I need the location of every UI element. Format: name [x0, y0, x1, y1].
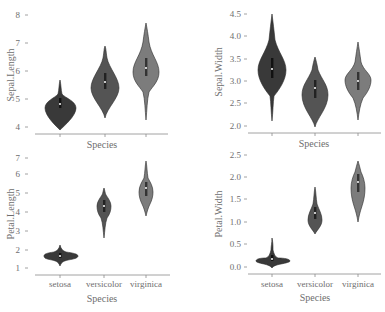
panel-petal-length: 7 6 5 4 3 2 1 Petal.Length setosa versic…: [5, 153, 170, 304]
y-tick: 5: [16, 94, 21, 104]
y-tick: 2.0: [230, 121, 242, 131]
y-tick: 2.5: [230, 98, 242, 108]
y-tick: 4: [16, 207, 21, 217]
y-tick: 8: [16, 10, 21, 20]
y-tick: 5: [16, 188, 21, 198]
y-axis-label: Petal.Width: [213, 190, 224, 237]
y-axis-label: Sepal.Length: [5, 48, 16, 101]
x-tick-virginica: virginica: [130, 279, 162, 289]
y-axis-label: Sepal.Width: [213, 47, 224, 96]
x-tick-versicolor: versicolor: [86, 279, 122, 289]
y-tick: 1.5: [230, 194, 242, 204]
x-tick-setosa: setosa: [261, 279, 283, 289]
panel-sepal-width: 4.5 4.0 3.5 3.0 2.5 2.0 Sepal.Width Spec…: [213, 9, 381, 149]
y-tick: 3.0: [230, 76, 242, 86]
y-tick: 2: [16, 245, 21, 255]
y-tick: 4.5: [230, 9, 242, 19]
y-tick: 3.5: [230, 54, 242, 64]
y-tick: 6: [16, 66, 21, 76]
y-tick: 0.5: [230, 239, 242, 249]
y-tick: 2.5: [230, 150, 242, 160]
panel-petal-width: 2.5 2.0 1.5 1.0 0.5 0.0 Petal.Width seto…: [213, 150, 381, 303]
y-tick: 2.0: [230, 172, 242, 182]
x-tick-virginica: virginica: [342, 279, 374, 289]
y-tick: 1: [16, 263, 21, 273]
y-tick: 1.0: [230, 217, 242, 227]
violin-versicolor: [97, 188, 111, 238]
x-axis-label: Species: [300, 292, 331, 303]
y-tick: 3: [16, 226, 21, 236]
y-tick: 0.0: [230, 262, 242, 272]
x-tick-versicolor: versicolor: [297, 279, 333, 289]
x-axis-label: Species: [299, 138, 330, 149]
x-tick-setosa: setosa: [49, 279, 71, 289]
violin-plot-grid: 8 7 6 5 4 Sepal.Length Species 4.5 4.0 3…: [0, 0, 385, 312]
y-tick: 7: [16, 38, 21, 48]
panel-sepal-length: 8 7 6 5 4 Sepal.Length Species: [5, 10, 168, 150]
y-tick: 4: [16, 122, 21, 132]
y-axis-label: Petal.Length: [5, 189, 16, 240]
y-tick: 6: [16, 169, 21, 179]
x-axis-label: Species: [87, 293, 118, 304]
x-axis-label: Species: [87, 139, 118, 150]
y-tick: 7: [16, 153, 21, 163]
y-tick: 4.0: [230, 31, 242, 41]
violin-setosa: [256, 238, 290, 268]
